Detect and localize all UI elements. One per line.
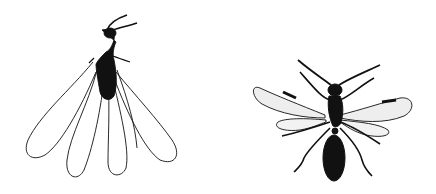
ant-antenna-left <box>298 60 331 85</box>
termite-body <box>96 29 116 99</box>
ant-gaster <box>323 135 345 181</box>
termite-wing-left-inner <box>67 70 104 177</box>
termite-antenna-right <box>113 23 137 30</box>
winged-ant <box>253 60 411 181</box>
ant-antenna-right <box>339 65 380 85</box>
ant-hindwing-left <box>277 119 326 131</box>
termite-wing-right-outer <box>114 72 177 162</box>
ant-forewing-left <box>253 87 325 118</box>
insect-comparison-illustration <box>0 0 436 194</box>
ant-head <box>328 84 342 96</box>
termite-wing-left-outer <box>26 62 96 158</box>
termite-alate <box>26 15 176 177</box>
ant-forewing-right <box>340 98 412 122</box>
